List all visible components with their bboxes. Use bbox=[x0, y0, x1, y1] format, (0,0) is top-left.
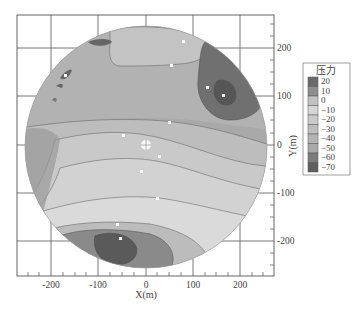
x-tick-label: 100 bbox=[186, 280, 201, 290]
x-axis-label: X(m) bbox=[135, 289, 157, 301]
y-tick-label: -200 bbox=[277, 236, 295, 246]
y-tick-label: -100 bbox=[277, 188, 295, 198]
legend-label: 20 bbox=[321, 76, 331, 86]
legend-swatch bbox=[308, 106, 318, 116]
x-tick-label: 200 bbox=[233, 280, 248, 290]
legend-label: 10 bbox=[321, 86, 331, 96]
legend-swatch bbox=[308, 77, 318, 87]
legend-label: −70 bbox=[321, 162, 336, 172]
center-marker-icon bbox=[141, 140, 151, 150]
legend-label: −50 bbox=[321, 143, 336, 153]
legend-label: −60 bbox=[321, 152, 336, 162]
contour-chart: -200 -100 0 100 200 X(m) 200 100 0 -100 … bbox=[0, 0, 362, 313]
y-tick-label: 200 bbox=[277, 43, 292, 53]
legend: 压力 20 10 0 −10 −20 −30 −40 −50 −60 −70 bbox=[303, 63, 350, 175]
legend-swatch bbox=[308, 96, 318, 106]
legend-label: −20 bbox=[321, 114, 336, 124]
legend-swatch bbox=[308, 87, 318, 97]
legend-label: −40 bbox=[321, 133, 336, 143]
legend-label: −30 bbox=[321, 124, 336, 134]
legend-swatch bbox=[308, 115, 318, 125]
y-tick-label: 100 bbox=[277, 91, 292, 101]
legend-swatch bbox=[308, 153, 318, 163]
legend-title: 压力 bbox=[316, 64, 336, 76]
y-axis-label: Y(m) bbox=[287, 135, 299, 157]
x-tick-label: -200 bbox=[42, 280, 60, 290]
legend-swatch bbox=[308, 163, 318, 173]
x-tick-label: -100 bbox=[89, 280, 107, 290]
legend-label: 0 bbox=[321, 95, 326, 105]
legend-swatch bbox=[308, 125, 318, 135]
y-tick-label: 0 bbox=[277, 140, 282, 150]
legend-label: −10 bbox=[321, 105, 336, 115]
legend-swatch bbox=[308, 144, 318, 154]
legend-swatch bbox=[308, 134, 318, 144]
